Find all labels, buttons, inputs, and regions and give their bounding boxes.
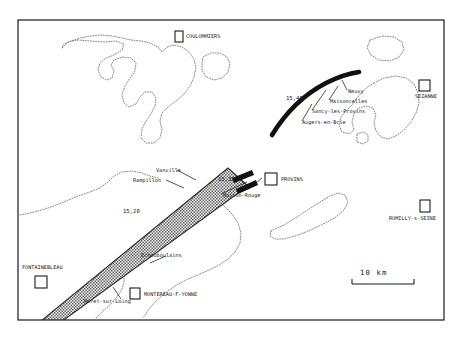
town-label-neuvy: Neuvy bbox=[348, 89, 364, 94]
city-label-sezanne: SEZANNE bbox=[415, 94, 437, 99]
town-label-augers-en-brie: Augers-en-Brie bbox=[302, 120, 346, 125]
town-label-rampillon: Rampillon bbox=[133, 178, 161, 183]
time-label-1530: 15,30 bbox=[218, 177, 235, 183]
city-marker-coulommiers bbox=[175, 31, 183, 42]
town-label-sancy-les-provins: Sancy-les-Provins bbox=[312, 109, 365, 114]
city-marker-romilly bbox=[420, 200, 430, 212]
city-marker-montereau bbox=[130, 288, 140, 299]
city-label-fontainebleau: FONTAINEBLEAU bbox=[22, 265, 63, 270]
page-background bbox=[0, 0, 462, 338]
town-label-echouboulains: Echouboulains bbox=[141, 253, 182, 258]
city-marker-provins bbox=[265, 173, 277, 185]
time-label-1545: 15,45 bbox=[286, 96, 303, 102]
town-label-vanville: Vanville bbox=[156, 168, 181, 173]
city-marker-fontainebleau bbox=[35, 276, 47, 288]
city-label-montereau: MONTEREAU-F-YONNE bbox=[144, 292, 197, 297]
scale-bar-label: 10 km bbox=[360, 269, 388, 276]
town-label-maisoncelles: Maisoncelles bbox=[330, 99, 367, 104]
time-label-1520: 15,20 bbox=[123, 209, 140, 215]
town-label-moret-sur-loing: Moret-sur-Loing bbox=[84, 299, 131, 304]
town-label-maison-rouge: Maison-Rouge bbox=[223, 193, 260, 198]
eclipse-map: COULOMMIERS SEZANNE PROVINS ROMILLY-s-SE… bbox=[0, 0, 462, 338]
city-label-coulommiers: COULOMMIERS bbox=[186, 34, 220, 39]
city-label-provins: PROVINS bbox=[281, 177, 303, 182]
city-label-romilly: ROMILLY-s-SEINE bbox=[389, 216, 436, 221]
map-canvas bbox=[0, 0, 462, 338]
city-marker-sezanne bbox=[419, 80, 430, 91]
